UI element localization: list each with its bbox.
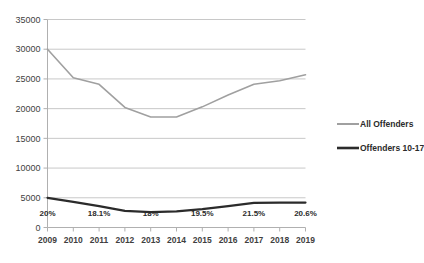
y-axis-tick-label: 0 <box>35 223 40 233</box>
percentage-label: 20.6% <box>294 209 317 218</box>
y-axis-tick-label: 25000 <box>15 74 40 84</box>
percentage-label: 21.5% <box>243 209 266 218</box>
percentage-label: 18% <box>143 209 159 218</box>
chart-container: 05000100001500020000250003000035000 20%1… <box>0 0 424 263</box>
percentage-label: 20% <box>39 209 55 218</box>
legend-label: Offenders 10-17 <box>360 143 424 153</box>
x-axis-tick-label: 2019 <box>296 235 315 245</box>
x-axis-tick-label: 2017 <box>244 235 263 245</box>
y-axis-tick-label: 30000 <box>15 44 40 54</box>
x-axis-tick-label: 2012 <box>115 235 134 245</box>
line-chart: 05000100001500020000250003000035000 20%1… <box>0 0 424 263</box>
x-axis-tick-label: 2015 <box>193 235 212 245</box>
legend-label: All Offenders <box>360 119 414 129</box>
x-axis-tick-label: 2011 <box>90 235 109 245</box>
y-axis-tick-label: 35000 <box>15 15 40 25</box>
x-axis-tick-labels: 2009201020112012201320142015201620172018… <box>38 235 315 245</box>
x-axis-tick-label: 2013 <box>141 235 160 245</box>
plot-background <box>0 0 424 263</box>
y-axis-tick-label: 15000 <box>15 134 40 144</box>
percentage-label: 19.5% <box>191 209 214 218</box>
x-axis-tick-label: 2010 <box>64 235 83 245</box>
percentage-label: 18.1% <box>88 209 111 218</box>
x-axis-tick-label: 2016 <box>219 235 238 245</box>
x-axis-tick-label: 2014 <box>167 235 186 245</box>
y-axis-tick-label: 10000 <box>15 163 40 173</box>
x-axis-tick-label: 2009 <box>38 235 57 245</box>
x-axis-tick-label: 2018 <box>270 235 289 245</box>
y-axis-tick-label: 5000 <box>20 193 40 203</box>
y-axis-tick-label: 20000 <box>15 104 40 114</box>
